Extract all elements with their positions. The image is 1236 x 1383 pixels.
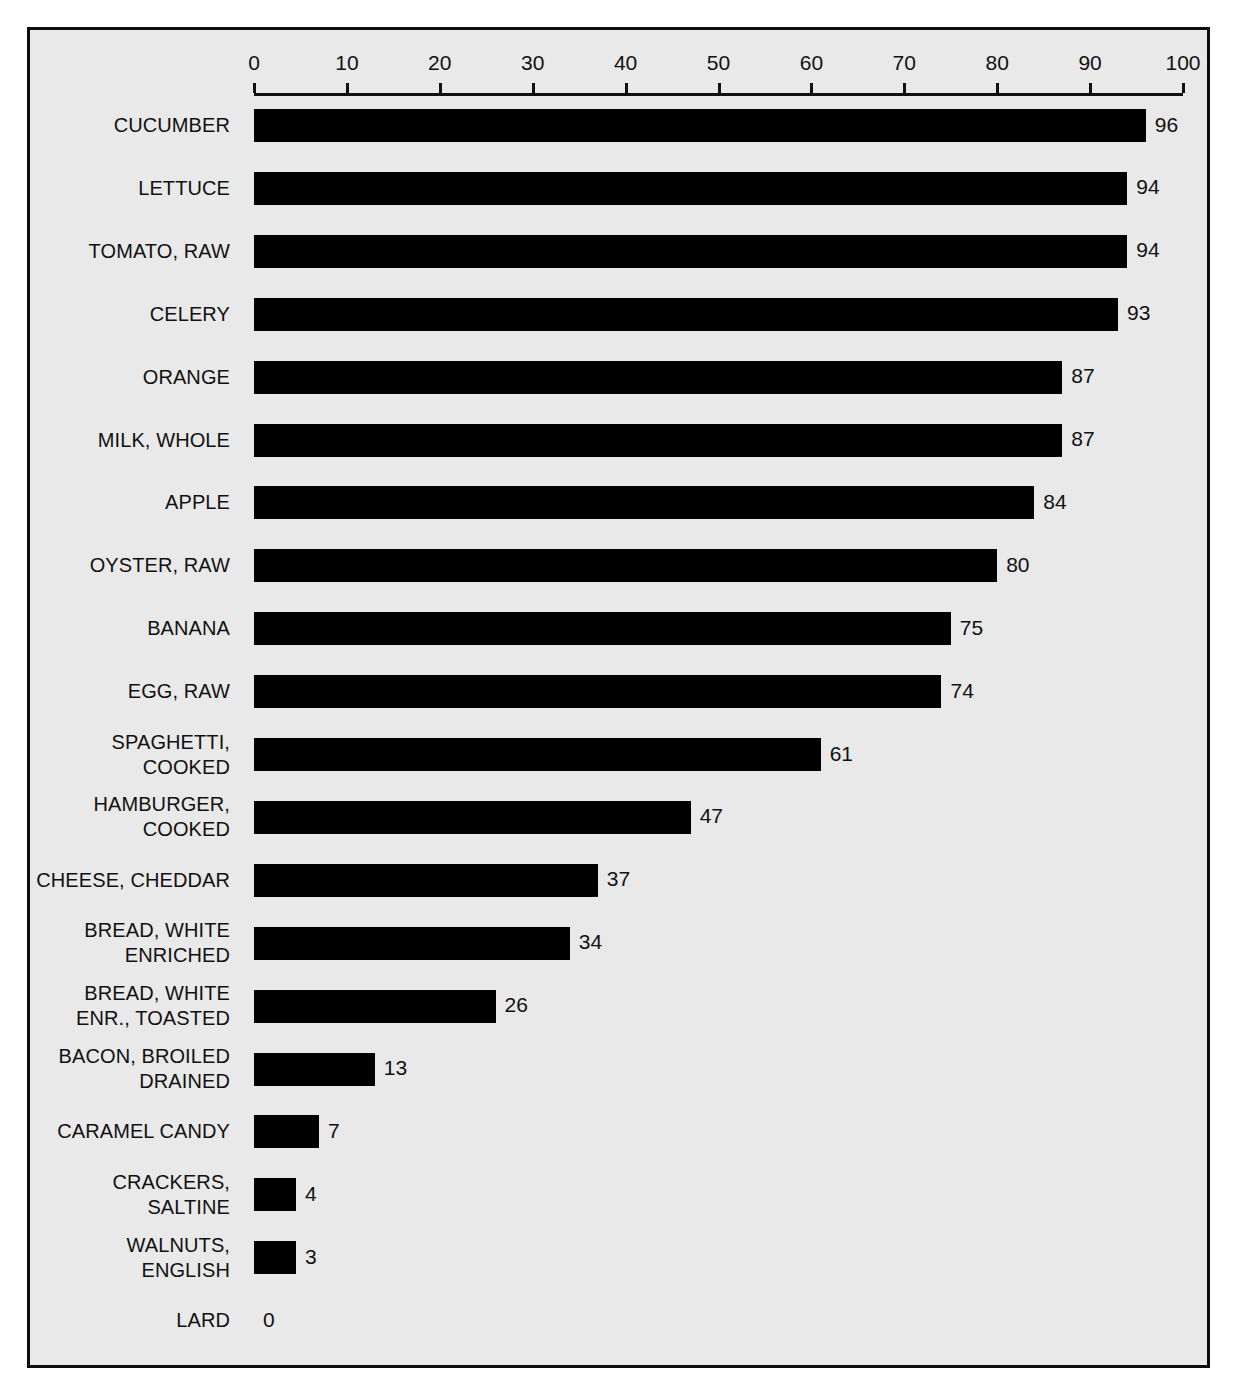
bar <box>254 235 1127 268</box>
bar-value-label: 26 <box>505 993 528 1017</box>
bar-category-label: BREAD, WHITE ENR., TOASTED <box>30 981 230 1031</box>
bar-category-label: HAMBURGER, COOKED <box>30 792 230 842</box>
bar-value-label: 47 <box>700 804 723 828</box>
bar-value-label: 0 <box>263 1308 275 1332</box>
bar-value-label: 87 <box>1071 427 1094 451</box>
bar-category-label: EGG, RAW <box>30 679 230 704</box>
bar-row: CELERY93 <box>30 298 1207 331</box>
bar <box>254 109 1146 142</box>
bar <box>254 801 691 834</box>
x-axis-tick <box>346 83 349 93</box>
bar-value-label: 74 <box>950 679 973 703</box>
x-axis-tick <box>903 83 906 93</box>
bar-row: APPLE84 <box>30 486 1207 519</box>
bar <box>254 1115 319 1148</box>
x-axis-line <box>254 93 1183 96</box>
bar-category-label: CHEESE, CHEDDAR <box>30 868 230 893</box>
bar-row: BREAD, WHITE ENRICHED34 <box>30 927 1207 960</box>
bar-category-label: OYSTER, RAW <box>30 553 230 578</box>
bar-category-label: TOMATO, RAW <box>30 239 230 264</box>
bar-value-label: 87 <box>1071 364 1094 388</box>
bar-value-label: 4 <box>305 1182 317 1206</box>
x-axis-tick <box>996 83 999 93</box>
x-axis-tick <box>439 83 442 93</box>
bar-category-label: LETTUCE <box>30 176 230 201</box>
bar-row: OYSTER, RAW80 <box>30 549 1207 582</box>
chart-figure: 0102030405060708090100 CUCUMBER96LETTUCE… <box>0 0 1236 1383</box>
bar-row: BACON, BROILED DRAINED13 <box>30 1053 1207 1086</box>
bar-value-label: 75 <box>960 616 983 640</box>
bar-category-label: ORANGE <box>30 365 230 390</box>
x-axis-tick-label: 70 <box>893 51 916 75</box>
bar-value-label: 93 <box>1127 301 1150 325</box>
bar-row: CARAMEL CANDY7 <box>30 1115 1207 1148</box>
bar-row: MILK, WHOLE87 <box>30 424 1207 457</box>
bar-row: BANANA75 <box>30 612 1207 645</box>
x-axis-tick <box>532 83 535 93</box>
bar-row: TOMATO, RAW94 <box>30 235 1207 268</box>
bar-row: WALNUTS, ENGLISH3 <box>30 1241 1207 1274</box>
chart-plate: 0102030405060708090100 CUCUMBER96LETTUCE… <box>27 27 1210 1368</box>
bar-value-label: 34 <box>579 930 602 954</box>
bar <box>254 549 997 582</box>
bar <box>254 990 496 1023</box>
x-axis-tick <box>810 83 813 93</box>
bar-category-label: CRACKERS, SALTINE <box>30 1170 230 1220</box>
bar-category-label: SPAGHETTI, COOKED <box>30 730 230 780</box>
x-axis-tick <box>253 83 256 93</box>
bar-category-label: CARAMEL CANDY <box>30 1119 230 1144</box>
bar-row: LARD0 <box>30 1304 1207 1337</box>
bar-category-label: CUCUMBER <box>30 113 230 138</box>
bar <box>254 1053 375 1086</box>
bar <box>254 172 1127 205</box>
bar <box>254 1178 296 1211</box>
bar-value-label: 13 <box>384 1056 407 1080</box>
bar-value-label: 96 <box>1155 113 1178 137</box>
bar <box>254 864 598 897</box>
x-axis-tick <box>1089 83 1092 93</box>
bar-value-label: 7 <box>328 1119 340 1143</box>
bar <box>254 1241 296 1274</box>
x-axis-tick-label: 50 <box>707 51 730 75</box>
bar <box>254 675 941 708</box>
x-axis-tick-label: 0 <box>248 51 260 75</box>
bar-row: CHEESE, CHEDDAR37 <box>30 864 1207 897</box>
bar-category-label: APPLE <box>30 490 230 515</box>
bar-category-label: MILK, WHOLE <box>30 428 230 453</box>
bar-row: BREAD, WHITE ENR., TOASTED26 <box>30 990 1207 1023</box>
bar-row: EGG, RAW74 <box>30 675 1207 708</box>
x-axis-tick-label: 60 <box>800 51 823 75</box>
x-axis-tick-label: 20 <box>428 51 451 75</box>
bar-value-label: 94 <box>1136 175 1159 199</box>
bar-category-label: WALNUTS, ENGLISH <box>30 1233 230 1283</box>
bar-category-label: BANANA <box>30 616 230 641</box>
x-axis-tick-label: 40 <box>614 51 637 75</box>
bar-value-label: 61 <box>830 742 853 766</box>
x-axis: 0102030405060708090100 <box>30 30 1207 96</box>
bar-value-label: 80 <box>1006 553 1029 577</box>
bar <box>254 612 951 645</box>
bar-row: HAMBURGER, COOKED47 <box>30 801 1207 834</box>
bar-row: CRACKERS, SALTINE4 <box>30 1178 1207 1211</box>
x-axis-tick <box>718 83 721 93</box>
x-axis-tick-label: 30 <box>521 51 544 75</box>
bar-row: ORANGE87 <box>30 361 1207 394</box>
bar-value-label: 3 <box>305 1245 317 1269</box>
bar-category-label: BACON, BROILED DRAINED <box>30 1044 230 1094</box>
x-axis-tick-label: 100 <box>1165 51 1200 75</box>
bar <box>254 927 570 960</box>
bar-value-label: 84 <box>1043 490 1066 514</box>
x-axis-tick <box>1182 83 1185 93</box>
bar-category-label: BREAD, WHITE ENRICHED <box>30 918 230 968</box>
bar-category-label: CELERY <box>30 302 230 327</box>
bar-value-label: 94 <box>1136 238 1159 262</box>
x-axis-tick-label: 10 <box>335 51 358 75</box>
x-axis-tick <box>625 83 628 93</box>
x-axis-tick-label: 80 <box>986 51 1009 75</box>
x-axis-tick-label: 90 <box>1078 51 1101 75</box>
bar-row: LETTUCE94 <box>30 172 1207 205</box>
bar <box>254 738 821 771</box>
bar <box>254 486 1034 519</box>
bar-row: CUCUMBER96 <box>30 109 1207 142</box>
bar-row: SPAGHETTI, COOKED61 <box>30 738 1207 771</box>
